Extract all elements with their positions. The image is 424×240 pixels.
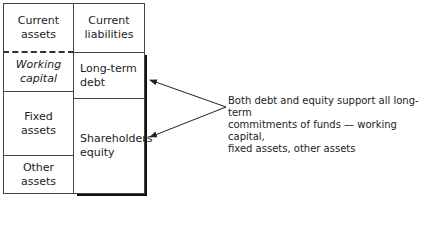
annotation-line: fixed assets, other assets	[228, 143, 424, 155]
annotation-line: Both debt and equity support all long-te…	[228, 95, 424, 119]
arrow-to-equity	[150, 107, 226, 137]
arrow-to-debt	[150, 80, 226, 107]
annotation-text: Both debt and equity support all long-te…	[228, 95, 424, 155]
annotation-line: commitments of funds — working capital,	[228, 119, 424, 143]
